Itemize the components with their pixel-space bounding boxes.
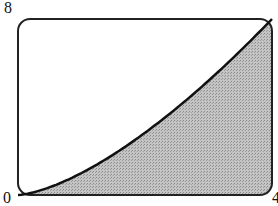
plot-area xyxy=(0,0,278,206)
shaded-area xyxy=(18,19,272,195)
